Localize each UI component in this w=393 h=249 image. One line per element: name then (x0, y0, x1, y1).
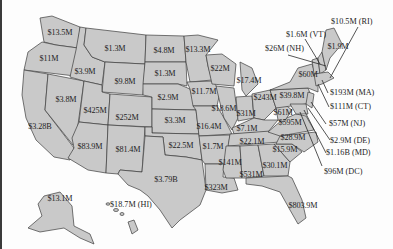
callout-vt: $1.6M (VT) (286, 31, 326, 39)
label-ut: $425M (83, 107, 106, 115)
label-mo: $16.4M (196, 123, 221, 131)
label-or: $11M (40, 55, 59, 63)
state-hi (128, 220, 138, 234)
label-sc: $15.9M (272, 146, 297, 154)
callout-de: $2.9M (DE) (330, 137, 370, 145)
label-id: $3.9M (74, 68, 95, 76)
label-ca: $3.28B (28, 123, 51, 131)
label-tx: $3.79B (154, 176, 177, 184)
label-ar: $1.7M (202, 143, 223, 151)
label-pa: $39.8M (279, 92, 304, 100)
label-la: $323M (204, 184, 227, 192)
label-nc: $28.9M (280, 134, 305, 142)
callout-nh: $26M (NH) (265, 45, 304, 53)
label-oh: $243M (253, 94, 276, 102)
label-wi: $22M (210, 65, 229, 73)
label-in: $31M (236, 110, 255, 118)
label-nv: $3.8M (55, 96, 76, 104)
leader-nj (311, 102, 326, 124)
callout-ma: $193M (MA) (330, 89, 374, 97)
label-mn: $13.3M (185, 46, 210, 54)
label-tn: $22.1M (239, 138, 264, 146)
label-ok: $22.5M (168, 142, 193, 150)
label-ms: $141M (218, 159, 241, 167)
label-ga: $30.1M (262, 162, 287, 170)
label-ak: $13.1M (47, 195, 72, 203)
hi-island (120, 213, 124, 216)
callout-dc: $96M (DC) (324, 168, 362, 176)
label-il: $18.6M (211, 105, 236, 113)
label-ne: $2.9M (157, 94, 178, 102)
callout-hi: $18.7M (HI) (110, 201, 152, 209)
label-wy: $9.8M (114, 78, 135, 86)
callout-ri: $10.5M (RI) (331, 18, 372, 26)
label-wa: $13.5M (47, 29, 72, 37)
label-sd: $1.3M (154, 70, 175, 78)
label-me: $1.9M (327, 43, 348, 51)
callout-md: $1.16B (MD) (326, 149, 371, 157)
label-az: $83.9M (77, 143, 102, 151)
label-fl: $803.9M (288, 202, 317, 210)
label-va: $595M (278, 119, 301, 127)
label-ks: $3.3M (164, 117, 185, 125)
label-ia: $11.7M (192, 88, 217, 96)
label-wv: $61M (273, 109, 292, 117)
callout-nj: $57M (NJ) (329, 120, 365, 128)
label-ny: $60M (298, 71, 317, 79)
label-co: $252M (115, 114, 138, 122)
callout-ct: $111M (CT) (330, 103, 371, 111)
leader-ct (318, 84, 329, 107)
label-ky: $7.1M (236, 125, 257, 133)
label-nm: $81.4M (115, 146, 140, 154)
label-mi: $17.4M (236, 77, 261, 85)
label-mt: $1.3M (104, 45, 125, 53)
label-al: $531M (239, 171, 262, 179)
label-nd: $4.8M (153, 47, 174, 55)
